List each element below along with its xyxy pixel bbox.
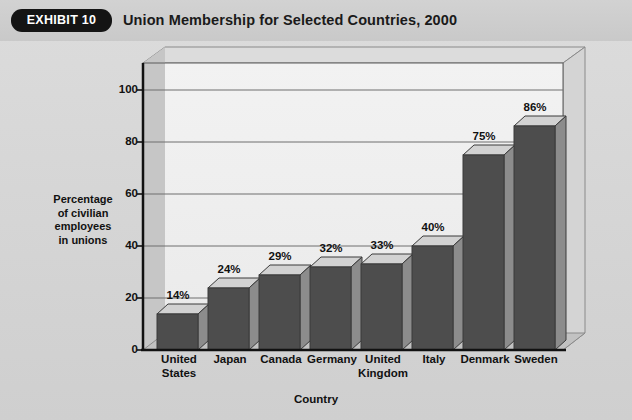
x-axis-title: Country xyxy=(0,393,632,405)
y-axis-title-line-3: employees xyxy=(44,220,122,234)
ytick-20: 20 xyxy=(104,291,138,303)
value-label-denmark: 75% xyxy=(449,130,519,142)
category-label-sweden: Sweden xyxy=(503,353,569,367)
y-axis-title-line-4: in unions xyxy=(44,234,122,248)
ytick-100: 100 xyxy=(104,83,138,95)
value-label-united-states: 14% xyxy=(143,289,213,301)
bar-sweden xyxy=(514,116,566,350)
value-label-japan: 24% xyxy=(194,263,264,275)
exhibit-title: Union Membership for Selected Countries,… xyxy=(123,12,457,28)
bar-chart: 0 20 40 60 80 100 Percentage of civilian… xyxy=(0,41,632,420)
bar-denmark xyxy=(463,145,515,350)
y-axis-title-line-2: of civilian xyxy=(44,207,122,221)
bar-united-kingdom xyxy=(361,254,413,350)
value-label-sweden: 86% xyxy=(500,101,570,113)
exhibit-badge-label: EXHIBIT 10 xyxy=(27,14,97,27)
category-label-united-states-line2: States xyxy=(146,367,212,381)
category-label-uk-line2: Kingdom xyxy=(350,367,416,381)
value-label-united-kingdom: 33% xyxy=(347,239,417,251)
bar-italy xyxy=(412,236,464,350)
y-axis-title: Percentage of civilian employees in unio… xyxy=(44,193,122,247)
value-label-italy: 40% xyxy=(398,221,468,233)
exhibit-header: EXHIBIT 10 Union Membership for Selected… xyxy=(0,0,632,41)
y-axis-title-line-1: Percentage xyxy=(44,193,122,207)
bar-united-states xyxy=(157,304,209,350)
bar-japan xyxy=(208,278,260,350)
ytick-0: 0 xyxy=(104,343,138,355)
ytick-80: 80 xyxy=(104,135,138,147)
bar-germany xyxy=(310,257,362,350)
exhibit-card: EXHIBIT 10 Union Membership for Selected… xyxy=(0,0,632,420)
bar-canada xyxy=(259,265,311,350)
exhibit-badge: EXHIBIT 10 xyxy=(11,9,112,32)
